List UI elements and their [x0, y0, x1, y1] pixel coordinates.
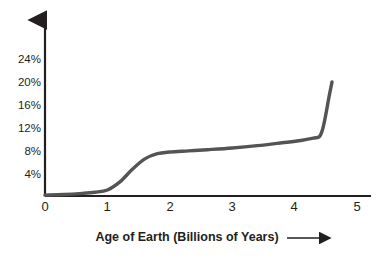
y-tick-label-16: 16% [18, 99, 41, 111]
x-axis-caption: Age of Earth (Billions of Years) [95, 230, 278, 244]
y-tick-label-24: 24% [18, 53, 41, 65]
x-tick-label-1: 1 [103, 199, 110, 214]
y-tick-label-4: 4% [24, 168, 41, 180]
x-tick-labels: 0 1 2 3 4 5 [41, 199, 360, 214]
x-tick-label-3: 3 [228, 199, 235, 214]
data-series-group [45, 82, 332, 195]
y-tick-label-8: 8% [24, 145, 41, 157]
chart-canvas: 24% 20% 16% 12% 8% 4% 0 1 2 3 4 5 Age of… [0, 0, 384, 259]
y-tick-labels: 24% 20% 16% 12% 8% 4% [18, 53, 41, 180]
y-tick-label-12: 12% [18, 122, 41, 134]
x-tick-label-4: 4 [290, 199, 297, 214]
y-tick-label-20: 20% [18, 76, 41, 88]
x-axis-caption-group: Age of Earth (Billions of Years) [95, 230, 330, 244]
line-series-atmospheric-oxygen [45, 82, 332, 195]
x-tick-label-2: 2 [166, 199, 173, 214]
x-tick-label-5: 5 [353, 199, 360, 214]
x-tick-label-0: 0 [41, 199, 48, 214]
chart-figure: 24% 20% 16% 12% 8% 4% 0 1 2 3 4 5 Age of… [0, 0, 384, 259]
